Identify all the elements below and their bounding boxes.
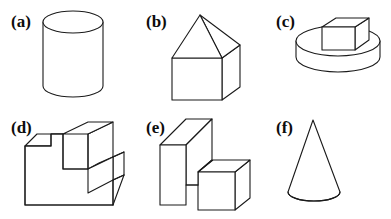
panel-label-c: (c) [276,12,295,31]
panel-label-a: (a) [11,12,31,31]
shape-stepped-block [25,122,124,205]
cone-body [288,120,340,201]
shape-slab-with-box [160,119,250,210]
projecting-box-front-face [198,172,235,210]
cylinder-top-ellipse [43,11,103,33]
panel-label-e: (e) [146,118,165,137]
solids-canvas: (a) (b) (c) (d) (e) (f) [0,0,391,219]
cube-front-face [322,27,355,50]
geometric-solids-figure: (a) (b) (c) (d) (e) (f) [0,0,391,219]
panel-label-d: (d) [11,118,32,137]
panel-label-f: (f) [276,118,293,137]
shape-cone [288,120,340,201]
panel-label-b: (b) [146,12,167,31]
shape-cube-on-disc [296,18,380,72]
slab-front-face [160,145,186,205]
shape-cylinder [43,11,103,97]
house-cube-front-face [172,58,222,100]
shape-house [172,15,240,100]
